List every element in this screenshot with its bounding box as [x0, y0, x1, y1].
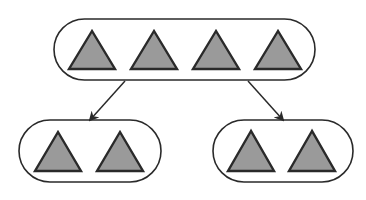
- triangle-icon: [255, 31, 301, 69]
- top-group: [54, 19, 315, 80]
- triangle-icon: [131, 31, 177, 69]
- triangle-icon: [193, 31, 239, 69]
- bottom-left-group: [19, 120, 161, 182]
- group-container: [213, 120, 353, 182]
- arrow-right-icon: [248, 81, 283, 120]
- split-diagram: [0, 0, 366, 200]
- triangle-icon: [69, 31, 115, 69]
- diagram-canvas: [0, 0, 366, 200]
- triangle-icon: [35, 132, 81, 171]
- triangle-icon: [289, 131, 335, 171]
- group-container: [19, 120, 161, 182]
- arrow-left-icon: [90, 81, 125, 120]
- bottom-right-group: [213, 120, 353, 182]
- triangle-icon: [97, 132, 143, 171]
- triangle-icon: [228, 131, 274, 171]
